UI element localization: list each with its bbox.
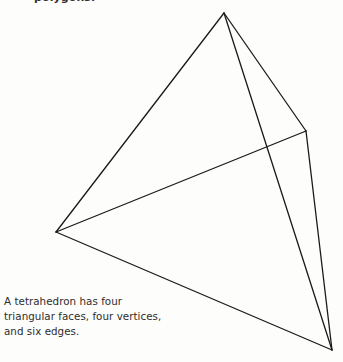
figure-caption: A tetrahedron has four triangular faces,… [4,294,194,339]
edge-apex-to-left [56,13,224,232]
edge-apex-to-right [224,13,306,131]
edge-left-to-right [56,131,306,232]
caption-line-3: and six edges. [4,324,194,339]
edge-right-to-bottom-right [306,131,332,350]
edge-apex-to-bottom-right [224,13,332,350]
caption-line-1: A tetrahedron has four [4,294,194,309]
diagram-page: polygons. A tetrahedron has four triangu… [0,0,343,362]
caption-line-2: triangular faces, four vertices, [4,309,194,324]
